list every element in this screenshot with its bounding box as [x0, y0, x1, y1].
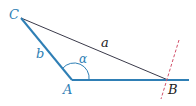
side-b-label: b — [36, 47, 44, 60]
side-b-line — [21, 18, 72, 80]
vertex-c-label: C — [9, 8, 19, 21]
triangle-diagram: C A B a b α — [0, 0, 196, 106]
vertex-a-label: A — [63, 83, 72, 96]
vertex-b-label: B — [168, 83, 178, 96]
angle-alpha-label: α — [79, 53, 87, 65]
diagram-lines — [0, 0, 196, 106]
side-a-label: a — [101, 36, 109, 49]
